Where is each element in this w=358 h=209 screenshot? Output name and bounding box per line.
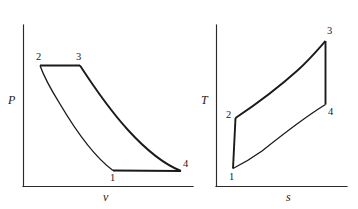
pv-state-label-3: 3 bbox=[76, 51, 81, 62]
ts-x-axis-label: s bbox=[286, 190, 291, 204]
pv-state-label-2: 2 bbox=[36, 51, 41, 62]
ts-diagram-panel: T s 1 2 3 4 bbox=[201, 25, 347, 204]
pv-process-4-1 bbox=[113, 171, 181, 172]
ts-process-1-2 bbox=[233, 118, 236, 169]
ts-state-label-4: 4 bbox=[328, 106, 334, 117]
diesel-cycle-figure: P v 1 2 3 4 T s 1 2 3 4 bbox=[0, 0, 358, 209]
ts-state-label-3: 3 bbox=[327, 25, 332, 36]
pv-y-axis-label: P bbox=[7, 93, 16, 107]
pv-state-label-1: 1 bbox=[110, 172, 115, 183]
pv-state-label-4: 4 bbox=[183, 158, 189, 169]
pv-process-3-4 bbox=[80, 66, 181, 172]
pv-x-axis-label: v bbox=[103, 190, 109, 204]
ts-state-label-2: 2 bbox=[226, 109, 231, 120]
pv-process-1-2 bbox=[40, 66, 113, 171]
pv-diagram-panel: P v 1 2 3 4 bbox=[7, 25, 193, 204]
ts-process-4-1 bbox=[233, 105, 326, 169]
ts-process-2-3 bbox=[236, 41, 326, 118]
ts-y-axis-label: T bbox=[201, 93, 209, 107]
ts-state-label-1: 1 bbox=[229, 171, 234, 182]
